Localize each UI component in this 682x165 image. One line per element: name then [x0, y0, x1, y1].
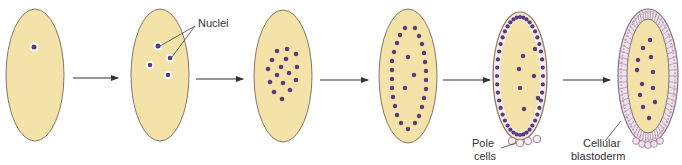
stage-4-embryo: [379, 9, 437, 143]
embryo-development-diagram: Nuclei: [0, 0, 682, 165]
cellular-blastoderm-label-line1: Cellular: [583, 137, 621, 149]
stage-6-embryo: Cellular blastoderm: [571, 9, 678, 162]
pole-cells-label-line2: cells: [474, 150, 497, 162]
nucleus: [32, 45, 37, 50]
pole-cells-leader-line: [501, 143, 516, 148]
yolk: [627, 19, 669, 133]
stage-2-embryo: Nuclei: [131, 9, 229, 141]
cellular-blastoderm-label-line2: blastoderm: [571, 150, 625, 162]
stage-5-embryo: Pole cells: [472, 12, 547, 162]
pole-cells-label-line1: Pole: [472, 137, 494, 149]
nuclei-label: Nuclei: [198, 17, 229, 29]
stage-1-embryo: [6, 9, 64, 141]
stage-3-embryo: [254, 10, 312, 142]
